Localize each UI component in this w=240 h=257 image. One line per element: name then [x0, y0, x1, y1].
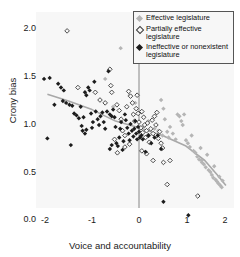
- data-point: [52, 103, 56, 107]
- data-point: [152, 114, 157, 119]
- data-point: [212, 164, 216, 168]
- data-point: [182, 112, 186, 116]
- data-point: [126, 89, 131, 94]
- data-point: [103, 101, 108, 106]
- data-point: [137, 120, 142, 125]
- data-point: [159, 98, 163, 102]
- data-point: [117, 108, 122, 113]
- data-point: [195, 194, 200, 199]
- data-point: [205, 153, 209, 157]
- data-point: [69, 143, 73, 147]
- data-point: [45, 136, 49, 140]
- legend-label: Partially effective legislature: [146, 25, 231, 42]
- data-point: [168, 158, 173, 163]
- data-point: [125, 126, 129, 130]
- data-point: [117, 135, 121, 139]
- data-point: [189, 133, 193, 137]
- data-point: [124, 118, 128, 122]
- data-point: [161, 160, 166, 165]
- data-point: [115, 103, 120, 108]
- data-point: [59, 85, 63, 89]
- data-point: [123, 133, 128, 138]
- series-2: [42, 69, 191, 217]
- data-point: [124, 104, 129, 109]
- data-point: [134, 106, 139, 111]
- ytick-label: 0.5: [6, 168, 36, 177]
- data-point: [98, 98, 103, 103]
- data-point: [92, 80, 96, 84]
- data-point: [109, 90, 114, 95]
- data-point: [111, 107, 115, 111]
- data-point: [168, 125, 172, 129]
- data-point: [130, 101, 135, 106]
- scatter-chart-figure: 2.0 1.5 1.0 0.5 0.0 -2 -1 0 1 2 Crony bi…: [0, 0, 240, 257]
- xtick-label: -2: [35, 216, 55, 225]
- data-point: [103, 77, 107, 81]
- data-point: [95, 117, 99, 121]
- ytick-label: 0.0: [6, 215, 36, 224]
- data-point: [90, 126, 94, 130]
- data-point: [181, 123, 185, 127]
- legend-label: Effective legislature: [146, 14, 210, 22]
- data-point: [161, 106, 165, 110]
- data-point: [113, 125, 117, 129]
- data-point: [112, 137, 117, 142]
- data-point: [155, 110, 160, 115]
- data-point: [151, 158, 156, 163]
- data-point: [115, 151, 120, 156]
- y-axis-label: Crony bias: [7, 61, 18, 141]
- legend-item-effective: Effective legislature: [136, 14, 231, 24]
- data-point: [42, 77, 46, 81]
- data-point: [109, 83, 114, 88]
- data-point: [84, 128, 88, 132]
- legend-item-ineffective: Ineffective or nonexistent legislature: [136, 43, 231, 60]
- data-point: [110, 143, 114, 147]
- data-point: [105, 109, 109, 113]
- data-point: [97, 123, 101, 127]
- data-point: [48, 76, 52, 80]
- data-point: [127, 142, 132, 147]
- data-point: [102, 120, 106, 124]
- open-diamond-icon: [136, 26, 145, 35]
- data-point: [121, 139, 125, 143]
- data-point: [65, 29, 70, 34]
- data-point: [198, 146, 202, 150]
- x-axis-label: Voice and accountability: [0, 240, 240, 251]
- chart-legend: Effective legislature Partially effectiv…: [133, 11, 234, 64]
- data-point: [89, 111, 93, 115]
- data-point: [171, 131, 175, 135]
- xtick-label: -1: [82, 216, 102, 225]
- data-point: [131, 134, 135, 138]
- data-point: [93, 90, 98, 95]
- data-point: [140, 149, 145, 154]
- data-point: [91, 120, 95, 124]
- filled-gray-diamond-icon: [136, 15, 145, 24]
- data-point: [108, 147, 112, 151]
- data-point: [165, 129, 169, 133]
- data-point: [141, 115, 146, 120]
- data-point: [179, 119, 183, 123]
- data-point: [62, 88, 66, 92]
- data-point: [163, 117, 167, 121]
- data-point: [56, 81, 60, 85]
- xtick-label: 0: [129, 216, 149, 225]
- data-point: [123, 112, 127, 116]
- data-point: [103, 127, 107, 131]
- xtick-label: 1: [177, 216, 197, 225]
- data-point: [81, 115, 85, 119]
- filled-black-diamond-icon: [136, 44, 145, 53]
- xtick-label: 2: [215, 216, 235, 225]
- data-point: [127, 138, 131, 142]
- data-point: [165, 182, 170, 187]
- data-point: [118, 46, 122, 50]
- data-point: [154, 123, 159, 128]
- data-point: [150, 118, 155, 123]
- legend-item-partially-effective: Partially effective legislature: [136, 25, 231, 42]
- data-point: [161, 200, 165, 204]
- data-point: [79, 124, 83, 128]
- legend-label: Ineffective or nonexistent legislature: [146, 43, 231, 60]
- data-point: [159, 141, 164, 146]
- data-point: [131, 112, 136, 117]
- data-point: [76, 85, 81, 90]
- ytick-label: 2.0: [6, 24, 36, 33]
